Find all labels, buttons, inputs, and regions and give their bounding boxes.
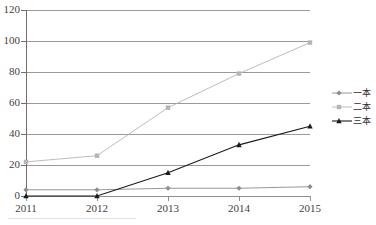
series-line — [26, 126, 310, 196]
data-point-marker — [95, 154, 99, 158]
data-point-marker — [23, 187, 28, 192]
square-marker-icon — [331, 100, 353, 114]
data-point-marker — [307, 184, 312, 189]
diamond-marker-icon — [331, 86, 353, 100]
series-2 — [24, 40, 312, 164]
page-rule-artifact — [8, 218, 136, 219]
legend-item-label: 三本 — [353, 116, 370, 126]
legend-item-label: 二本 — [353, 102, 370, 112]
series-line — [26, 43, 310, 162]
data-series-layer — [0, 0, 376, 225]
data-point-marker — [237, 71, 241, 75]
data-point-marker — [165, 186, 170, 191]
legend-item-label: 一本 — [353, 88, 370, 98]
legend-item: 三本 — [331, 114, 376, 128]
data-point-marker — [24, 160, 28, 164]
triangle-marker-icon — [331, 114, 353, 128]
data-point-marker — [236, 186, 241, 191]
data-point-marker — [166, 105, 170, 109]
line-chart: 020406080100120 20112012201320142015 一本二… — [0, 0, 376, 225]
legend-item: 一本 — [331, 86, 376, 100]
data-point-marker — [308, 40, 312, 44]
chart-legend: 一本二本三本 — [331, 86, 376, 128]
data-point-marker — [94, 187, 99, 192]
legend-item: 二本 — [331, 100, 376, 114]
series-1 — [23, 184, 312, 192]
data-point-marker — [307, 123, 312, 128]
